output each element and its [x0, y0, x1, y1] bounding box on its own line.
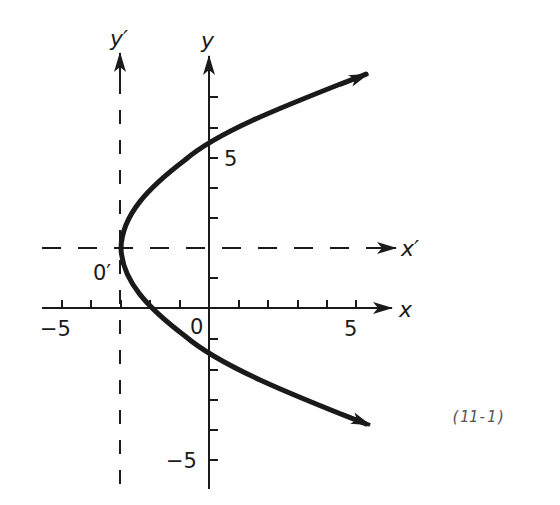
y-axis	[209, 56, 218, 489]
y-tick-label-5: 5	[224, 147, 237, 171]
y-axis-ticks	[209, 97, 218, 460]
parabola-curve	[121, 74, 370, 425]
x-axis-label: x	[398, 297, 413, 322]
y-tick-label-neg5: −5	[166, 449, 197, 473]
y-axis-label: y	[200, 28, 215, 53]
origin-label: 0	[190, 315, 203, 339]
x-tick-label-neg5: −5	[40, 317, 71, 341]
x-prime-axis-label: x′	[400, 236, 419, 261]
x-tick-label-5: 5	[344, 317, 357, 341]
parabola-diagram: y′ y x′ x 0′ 0 −5 5 5 −5 (11-1)	[0, 0, 560, 505]
equation-number-label: (11-1)	[451, 408, 505, 426]
y-prime-axis-label: y′	[109, 26, 128, 51]
x-axis	[42, 300, 392, 308]
new-origin-label: 0′	[93, 261, 111, 285]
